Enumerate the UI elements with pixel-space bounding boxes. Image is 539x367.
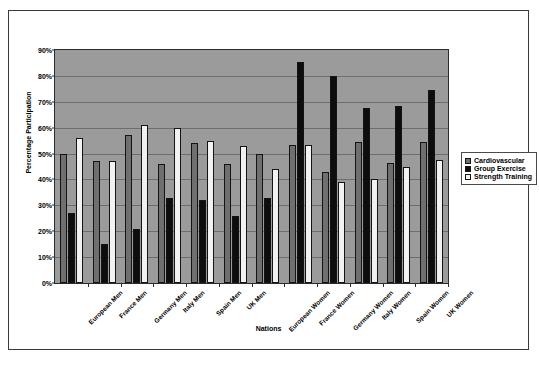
legend-entry: Group Exercise — [465, 165, 532, 172]
bar — [387, 163, 394, 283]
bar — [420, 142, 427, 283]
bar-group — [415, 50, 448, 283]
x-axis-title: Nations — [9, 325, 528, 332]
x-tick-mark — [383, 283, 384, 287]
y-tick-label: 0% — [42, 280, 52, 287]
bar-group — [55, 50, 88, 283]
bar — [256, 154, 263, 283]
bar — [240, 146, 247, 283]
bar — [60, 154, 67, 283]
chart-frame: Percentage Participation 0%10%20%30%40%5… — [8, 10, 529, 350]
bar — [371, 179, 378, 283]
bar — [68, 213, 75, 283]
x-tick-label: Spain Men — [215, 289, 243, 317]
bar — [166, 198, 173, 283]
x-tick-label: European Men — [87, 289, 124, 326]
bar — [232, 216, 239, 283]
bar — [428, 90, 435, 283]
y-tick-label: 30% — [38, 202, 52, 209]
x-tick-mark — [153, 283, 154, 287]
legend-swatch-icon — [465, 158, 471, 164]
legend-swatch-icon — [465, 174, 471, 180]
bar-group — [383, 50, 416, 283]
y-tick-label: 60% — [38, 124, 52, 131]
x-tick-mark — [448, 283, 449, 287]
bar-group — [121, 50, 154, 283]
bar-group — [153, 50, 186, 283]
bar — [264, 198, 271, 283]
bar — [395, 106, 402, 283]
bar-group — [350, 50, 383, 283]
y-tick-label: 80% — [38, 72, 52, 79]
bar — [224, 164, 231, 283]
bars-layer — [55, 50, 448, 283]
bar — [338, 182, 345, 283]
x-tick-mark — [219, 283, 220, 287]
y-tick-label: 90% — [38, 47, 52, 54]
y-tick-label: 70% — [38, 98, 52, 105]
bar — [322, 172, 329, 283]
bar — [330, 76, 337, 283]
bar-group — [317, 50, 350, 283]
x-tick-mark — [317, 283, 318, 287]
y-tick-label: 40% — [38, 176, 52, 183]
legend: CardiovascularGroup ExerciseStrength Tra… — [461, 152, 537, 185]
y-tick-label: 20% — [38, 228, 52, 235]
x-tick-mark — [350, 283, 351, 287]
bar — [305, 145, 312, 284]
x-tick-mark — [284, 283, 285, 287]
legend-label: Group Exercise — [474, 165, 526, 172]
bar — [436, 160, 443, 283]
legend-label: Strength Training — [474, 173, 532, 180]
x-tick-mark — [88, 283, 89, 287]
bar — [93, 161, 100, 283]
bar-group — [186, 50, 219, 283]
bar — [101, 244, 108, 283]
y-tick-label: 50% — [38, 150, 52, 157]
x-tick-mark — [121, 283, 122, 287]
x-tick-mark — [186, 283, 187, 287]
x-tick-mark — [252, 283, 253, 287]
legend-swatch-icon — [465, 166, 471, 172]
y-tick-label: 10% — [38, 254, 52, 261]
bar-group — [284, 50, 317, 283]
bar — [133, 229, 140, 283]
bar-group — [252, 50, 285, 283]
bar — [403, 167, 410, 284]
plot-area: 0%10%20%30%40%50%60%70%80%90% — [54, 49, 449, 284]
bar — [207, 141, 214, 283]
bar — [272, 169, 279, 283]
x-tick-label: UK Men — [245, 289, 267, 311]
bar — [141, 125, 148, 283]
bar — [289, 145, 296, 284]
bar-group — [88, 50, 121, 283]
legend-entry: Strength Training — [465, 173, 532, 180]
bar — [363, 108, 370, 283]
legend-label: Cardiovascular — [474, 157, 525, 164]
bar-group — [219, 50, 252, 283]
bar — [158, 164, 165, 283]
legend-entry: Cardiovascular — [465, 157, 532, 164]
bar — [191, 143, 198, 283]
bar — [109, 161, 116, 283]
x-tick-label: Spain Women — [414, 289, 449, 324]
bar — [76, 138, 83, 283]
bar — [355, 142, 362, 283]
y-axis-title: Percentage Participation — [25, 68, 32, 198]
x-tick-mark — [415, 283, 416, 287]
bar — [297, 62, 304, 283]
bar — [199, 200, 206, 283]
bar — [125, 135, 132, 283]
bar — [174, 128, 181, 283]
